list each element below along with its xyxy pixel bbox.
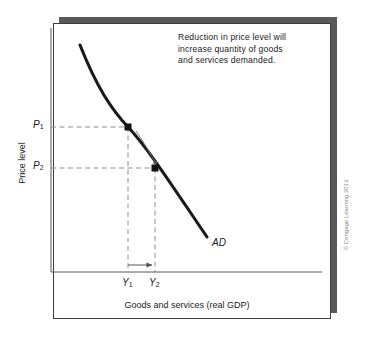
figure-root: Reduction in price level will increase q… <box>0 0 374 337</box>
marked-point-1 <box>125 124 132 131</box>
plot-graphics-layer <box>0 0 374 337</box>
ad-curve <box>80 45 207 237</box>
marked-point-2 <box>152 165 159 172</box>
